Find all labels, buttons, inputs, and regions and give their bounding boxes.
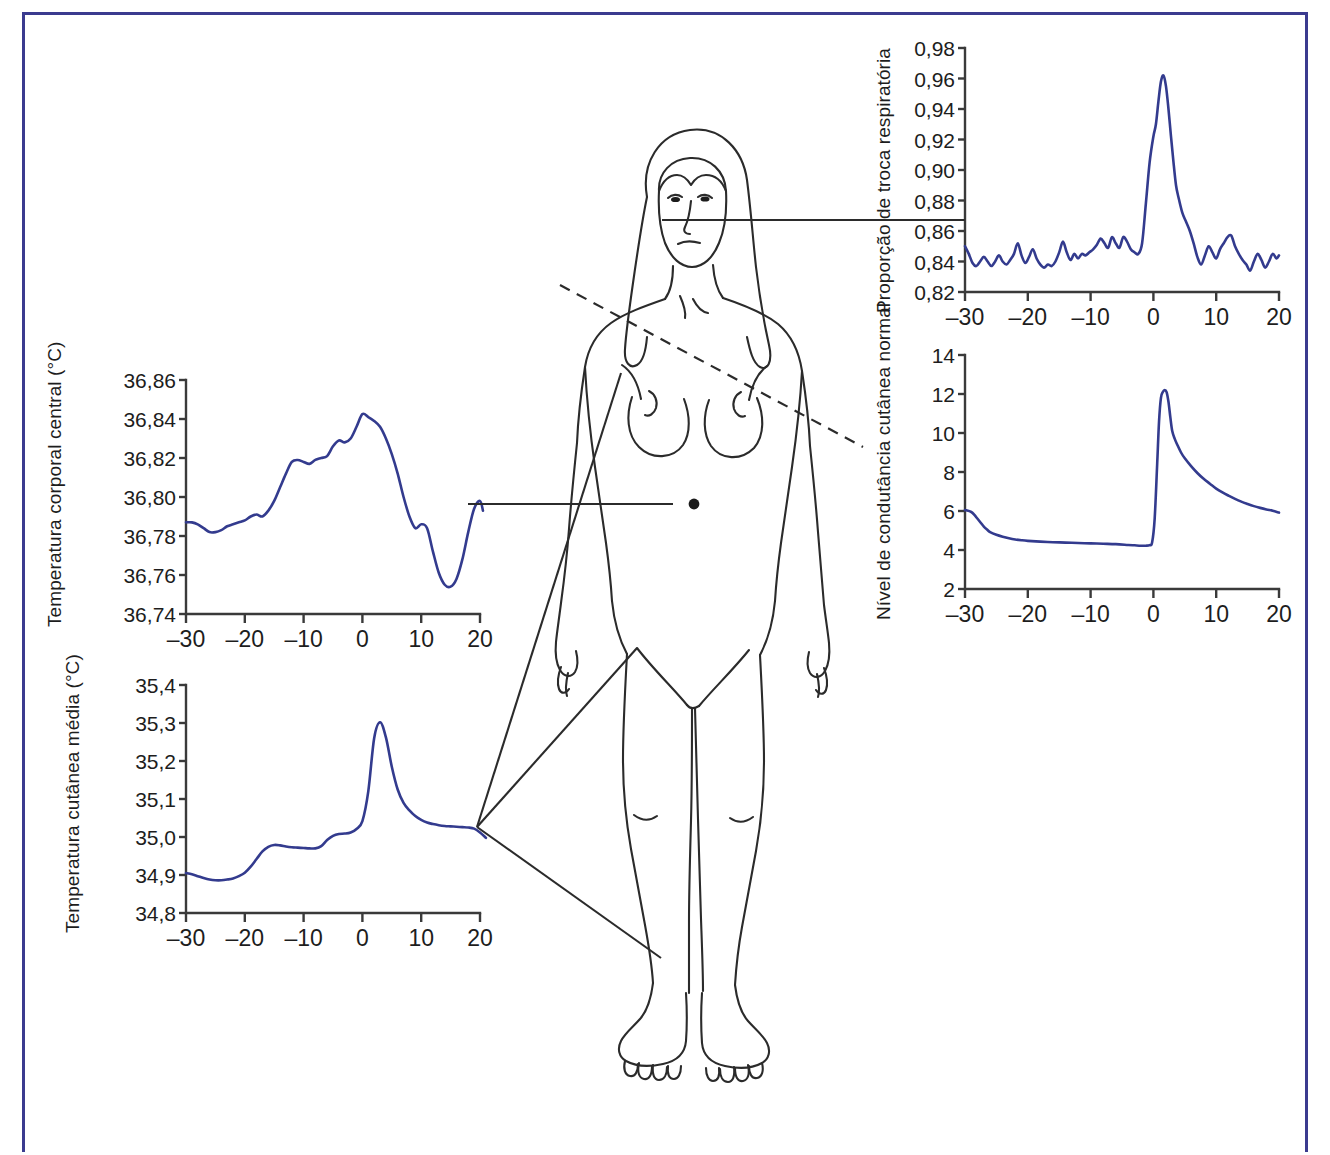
xtick: 10: [408, 927, 434, 950]
core-body-temperature-plot: [30, 355, 500, 645]
xtick: 20: [467, 927, 493, 950]
xtick: 10: [1203, 306, 1229, 329]
xtick: 0: [356, 927, 369, 950]
core-body-temperature-curve: [186, 414, 483, 587]
xtick: 0: [1147, 306, 1160, 329]
xtick: 20: [1266, 306, 1292, 329]
xtick: 0: [1147, 603, 1160, 626]
xtick: –10: [1071, 603, 1109, 626]
xtick: –20: [1009, 306, 1047, 329]
skin-conductance-level-curve: [965, 390, 1279, 546]
xtick: –20: [226, 927, 264, 950]
xtick: 20: [1266, 603, 1292, 626]
xtick: –30: [946, 306, 984, 329]
xtick: –30: [167, 927, 205, 950]
navel-dot: [689, 499, 700, 510]
mean-skin-temperature-curve: [186, 722, 486, 880]
xtick: –30: [946, 603, 984, 626]
chart-respiratory-exchange-ratio: Proporção de troca respiratória 0,98 0,9…: [855, 30, 1285, 330]
chest-connector-line: [560, 285, 863, 447]
respiratory-exchange-ratio-plot: [855, 30, 1285, 330]
chart-core-body-temperature: Temperatura corporal central (°C) 36,86 …: [30, 355, 500, 645]
mean-skin-temperature-plot: [30, 645, 500, 945]
xtick: –10: [1071, 306, 1109, 329]
skin-conductance-level-plot: [855, 333, 1285, 633]
xtick: 10: [1203, 603, 1229, 626]
figure-frame: Proporção de troca respiratória 0,98 0,9…: [22, 12, 1308, 1152]
female-figure-outline: [556, 130, 830, 1082]
skin-sites-connector-lines: [477, 373, 661, 958]
xtick: –20: [1009, 603, 1047, 626]
chart-skin-conductance-level: Nível de condutância cutânea normal 14 1…: [855, 333, 1285, 633]
respiratory-exchange-ratio-curve: [965, 75, 1279, 270]
xtick: –10: [284, 927, 322, 950]
chart-mean-skin-temperature: Temperatura cutânea média (°C) 35,4 35,3…: [30, 645, 500, 945]
